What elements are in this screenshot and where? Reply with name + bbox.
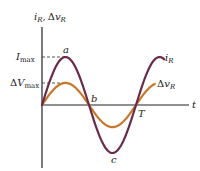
point-c-label: c (111, 154, 117, 165)
x-axis-label: t (192, 99, 197, 110)
phase-diagram: iR,ΔvR Imax ΔVmax a b c T t iR ΔvR (0, 0, 200, 171)
y-axis-label: iR,ΔvR (34, 11, 67, 24)
voltage-curve-label: ΔvR (157, 78, 176, 91)
current-curve-label: iR (165, 52, 174, 65)
point-a-label: a (63, 44, 69, 55)
vmax-label: ΔVmax (10, 77, 39, 90)
imax-label: Imax (15, 51, 35, 64)
point-b-label: b (91, 93, 97, 104)
period-T-label: T (138, 108, 146, 119)
